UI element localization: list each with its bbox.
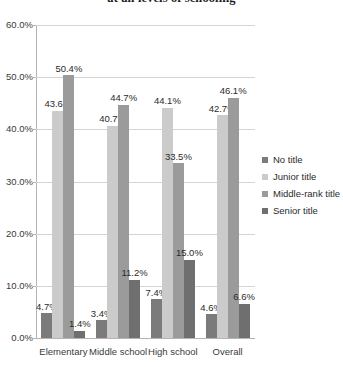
bar-group: 4.6%42.7%46.1%6.6%Overall — [200, 25, 255, 338]
bar[interactable]: 44.1% — [162, 108, 173, 338]
legend-swatch-icon — [262, 191, 268, 197]
chart-title: at all levels of schooling — [0, 0, 343, 6]
x-axis-category-label: Overall — [213, 346, 243, 357]
y-axis-tick-label: 10.0% — [0, 281, 33, 291]
bar[interactable]: 44.7% — [118, 105, 129, 338]
legend-swatch-icon — [262, 174, 268, 180]
bar-chart: at all levels of schooling 60.0%50.0%40.… — [0, 0, 343, 367]
legend-label: Junior title — [273, 172, 316, 182]
bar-group: 7.4%44.1%33.5%15.0%High school — [146, 25, 201, 338]
y-axis-tick-label: 0.0% — [0, 333, 33, 343]
bar[interactable]: 7.4% — [151, 299, 162, 338]
bar[interactable]: 3.4% — [96, 320, 107, 338]
legend-label: Senior title — [273, 206, 318, 216]
y-axis-tick-label: 20.0% — [0, 229, 33, 239]
x-axis-category-label: High school — [148, 346, 198, 357]
bar-value-label: 44.1% — [154, 96, 181, 106]
chart-legend: No titleJunior titleMiddle-rank titleSen… — [262, 151, 343, 219]
bar[interactable]: 50.4% — [63, 75, 74, 338]
legend-label: No title — [273, 155, 303, 165]
plot-area: 4.7%43.6%50.4%1.4%Elementary3.4%40.7%44.… — [36, 25, 255, 338]
legend-item[interactable]: No title — [262, 151, 343, 168]
bar[interactable]: 4.6% — [206, 314, 217, 338]
bar[interactable]: 6.6% — [239, 304, 250, 338]
bar-value-label: 15.0% — [176, 248, 203, 258]
bar-value-label: 6.6% — [233, 292, 255, 302]
legend-swatch-icon — [262, 208, 268, 214]
legend-item[interactable]: Junior title — [262, 168, 343, 185]
bar[interactable]: 1.4% — [74, 331, 85, 338]
x-axis-category-label: Middle school — [89, 346, 147, 357]
bar[interactable]: 15.0% — [184, 260, 195, 338]
y-axis-tick-label: 40.0% — [0, 124, 33, 134]
bar-value-label: 44.7% — [110, 93, 137, 103]
legend-item[interactable]: Senior title — [262, 202, 343, 219]
bar-value-label: 50.4% — [55, 64, 82, 74]
bar[interactable]: 43.6% — [52, 111, 63, 338]
bar[interactable]: 4.7% — [41, 313, 52, 338]
bar-value-label: 11.2% — [122, 268, 148, 278]
bar-value-label: 1.4% — [69, 319, 91, 329]
bar-group: 3.4%40.7%44.7%11.2%Middle school — [91, 25, 146, 338]
bar-value-label: 33.5% — [165, 152, 192, 162]
legend-swatch-icon — [262, 157, 268, 163]
y-axis-tick-label: 30.0% — [0, 177, 33, 187]
bar[interactable]: 40.7% — [107, 126, 118, 338]
bar[interactable]: 11.2% — [129, 280, 140, 338]
y-axis-tick-label: 60.0% — [0, 20, 33, 30]
axis-baseline — [36, 338, 255, 339]
x-axis-category-label: Elementary — [39, 346, 87, 357]
bar[interactable]: 42.7% — [217, 115, 228, 338]
legend-item[interactable]: Middle-rank title — [262, 185, 343, 202]
y-axis-tick-label: 50.0% — [0, 72, 33, 82]
bar-group: 4.7%43.6%50.4%1.4%Elementary — [36, 25, 91, 338]
legend-label: Middle-rank title — [273, 189, 340, 199]
bar-value-label: 46.1% — [220, 86, 247, 96]
